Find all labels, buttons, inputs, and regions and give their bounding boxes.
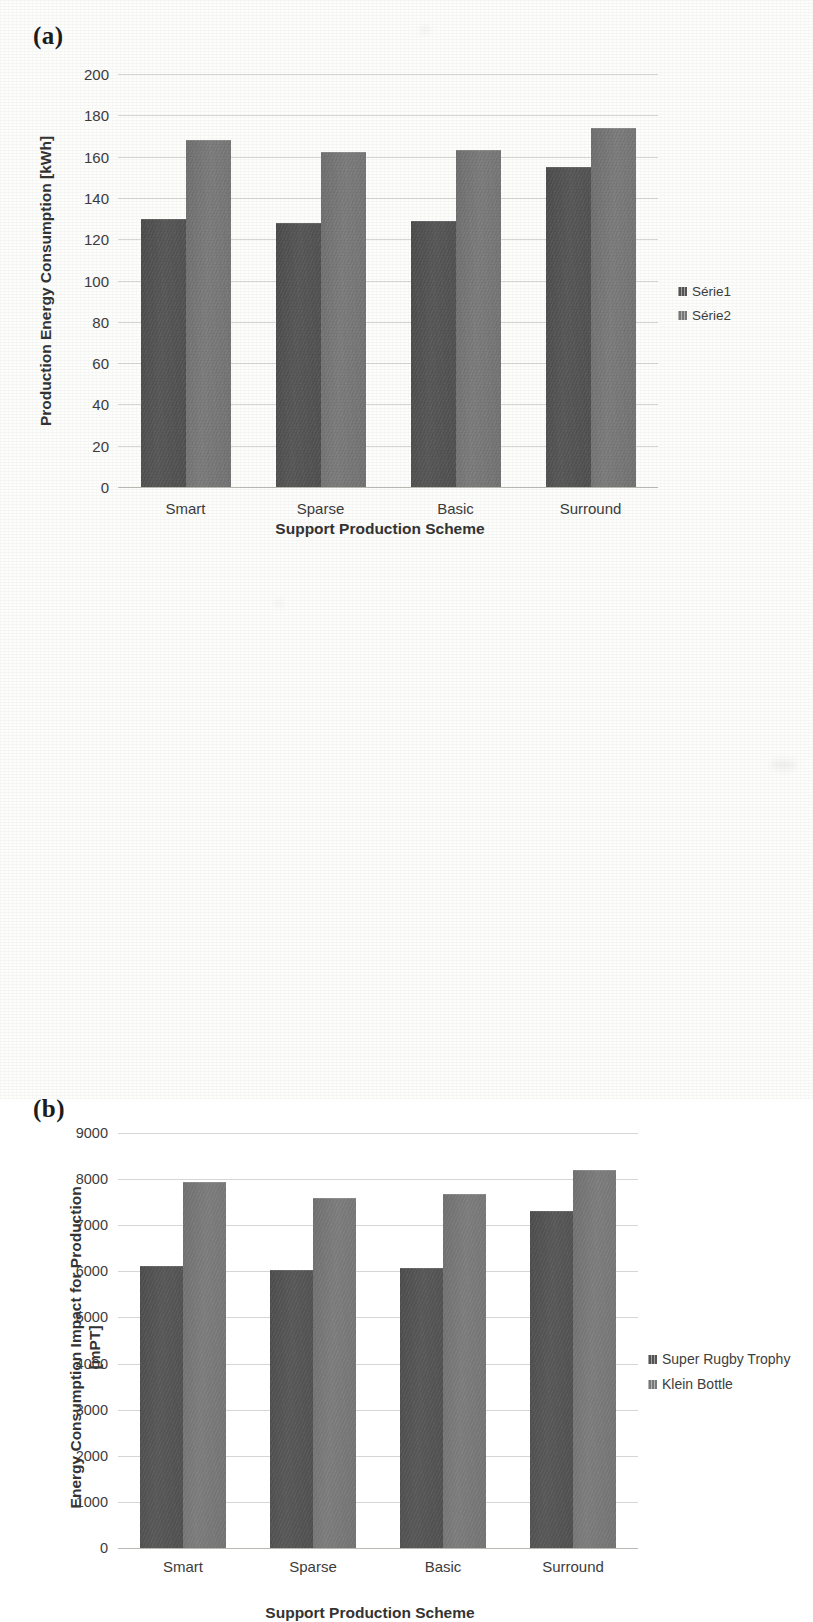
legend-b: Super Rugby TrophyKlein Bottle: [648, 1351, 790, 1392]
legend-label: Série2: [692, 308, 731, 323]
x-tick-label: Sparse: [289, 1558, 337, 1575]
legend-swatch-icon: [648, 1355, 657, 1364]
legend-item: Klein Bottle: [648, 1376, 790, 1392]
bar-group: Smart: [118, 1133, 248, 1548]
bar: [573, 1170, 616, 1548]
legend-item: Série2: [678, 308, 731, 323]
bar: [546, 167, 591, 487]
y-tick-label: 1000: [46, 1494, 108, 1510]
bar-group: Surround: [523, 74, 658, 487]
legend-label: Super Rugby Trophy: [662, 1351, 790, 1367]
legend-item: Série1: [678, 284, 731, 299]
bar: [186, 140, 231, 487]
bar: [530, 1211, 573, 1548]
bar-group: Sparse: [253, 74, 388, 487]
bar-groups-a: SmartSparseBasicSurround: [118, 74, 658, 487]
legend-item: Super Rugby Trophy: [648, 1351, 790, 1367]
x-tick-label: Smart: [165, 500, 205, 517]
plot-area-b: 9000800070006000500040003000200010000 Sm…: [118, 1133, 638, 1548]
chart-panel-b: (b) Energy Consumption Impact for Produc…: [0, 545, 813, 1099]
y-tick-label: 6000: [46, 1263, 108, 1279]
x-tick-label: Basic: [425, 1558, 462, 1575]
legend-swatch-icon: [678, 287, 687, 296]
y-tick-label: 2000: [46, 1448, 108, 1464]
bar-group: Basic: [388, 74, 523, 487]
plot-area-a: 200180160140120100806040200 SmartSparseB…: [118, 74, 658, 487]
x-axis-title-a: Support Production Scheme: [200, 520, 560, 538]
x-axis-title-b: Support Production Scheme: [190, 1604, 550, 1622]
bar: [270, 1270, 313, 1548]
x-tick-label: Sparse: [297, 500, 345, 517]
y-tick-label: 180: [45, 107, 109, 124]
y-tick-label: 4000: [46, 1356, 108, 1372]
y-tick-label: 80: [45, 313, 109, 330]
bar: [591, 128, 636, 487]
y-tick-label: 140: [45, 189, 109, 206]
panel-label-b: (b): [33, 1095, 65, 1123]
y-tick-label: 8000: [46, 1171, 108, 1187]
bar: [321, 152, 366, 487]
bar: [313, 1198, 356, 1548]
panel-label-a: (a): [33, 22, 64, 50]
legend-label: Klein Bottle: [662, 1376, 733, 1392]
axis-baseline: 0: [118, 1548, 638, 1549]
bar-group: Sparse: [248, 1133, 378, 1548]
bar: [443, 1194, 486, 1548]
y-tick-label: 20: [45, 437, 109, 454]
y-tick-label: 120: [45, 231, 109, 248]
axis-baseline: 0: [118, 487, 658, 488]
bar: [276, 223, 321, 487]
y-tick-label: 9000: [46, 1125, 108, 1141]
bar: [141, 219, 186, 487]
y-tick-label: 5000: [46, 1309, 108, 1325]
y-tick-label: 100: [45, 272, 109, 289]
x-tick-label: Surround: [560, 500, 622, 517]
y-tick-label: 7000: [46, 1217, 108, 1233]
x-tick-label: Smart: [163, 1558, 203, 1575]
y-tick-label: 160: [45, 148, 109, 165]
bar: [183, 1182, 226, 1548]
bar: [400, 1268, 443, 1548]
bar: [411, 221, 456, 487]
bar-groups-b: SmartSparseBasicSurround: [118, 1133, 638, 1548]
legend-a: Série1Série2: [678, 284, 731, 323]
x-tick-label: Basic: [437, 500, 474, 517]
legend-label: Série1: [692, 284, 731, 299]
chart-panel-a: (a) Production Energy Consumption [kWh] …: [0, 0, 813, 560]
legend-swatch-icon: [648, 1380, 657, 1389]
y-tick-label: 60: [45, 355, 109, 372]
y-tick-label: 3000: [46, 1402, 108, 1418]
legend-swatch-icon: [678, 311, 687, 320]
x-tick-label: Surround: [542, 1558, 604, 1575]
bar: [456, 150, 501, 487]
bar: [140, 1266, 183, 1548]
bar-group: Surround: [508, 1133, 638, 1548]
y-tick-label: 0: [46, 1540, 108, 1556]
y-tick-label: 40: [45, 396, 109, 413]
bar-group: Basic: [378, 1133, 508, 1548]
y-tick-label: 0: [45, 479, 109, 496]
y-tick-label: 200: [45, 66, 109, 83]
bar-group: Smart: [118, 74, 253, 487]
